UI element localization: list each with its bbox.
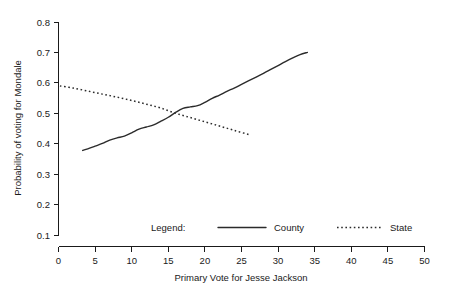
- y-tick-label: 0.3: [37, 169, 50, 180]
- legend-title: Legend:: [151, 222, 185, 233]
- y-axis-title: Probability of voting for Mondale: [12, 60, 23, 196]
- x-tick-label: 15: [163, 255, 174, 266]
- chart-figure: 0.8 0.7 0.6 0.5 0.4 0.3 0.2 0.1 0 5 1: [0, 0, 450, 296]
- chart-legend: Legend: County State: [151, 222, 412, 233]
- y-axis-ticks: [54, 22, 59, 235]
- x-tick-label: 30: [273, 255, 284, 266]
- x-tick-label: 0: [56, 255, 61, 266]
- legend-label-state: State: [390, 222, 412, 233]
- x-axis-title: Primary Vote for Jesse Jackson: [174, 272, 307, 283]
- x-tick-label: 40: [346, 255, 357, 266]
- x-tick-label: 45: [383, 255, 394, 266]
- y-tick-label: 0.5: [37, 108, 50, 119]
- y-tick-label: 0.4: [37, 138, 50, 149]
- x-tick-label: 20: [200, 255, 211, 266]
- x-tick-label: 35: [309, 255, 320, 266]
- legend-label-county: County: [274, 222, 304, 233]
- y-tick-label: 0.1: [37, 230, 50, 241]
- x-tick-label: 5: [92, 255, 97, 266]
- y-tick-label: 0.8: [37, 17, 50, 28]
- x-tick-label: 50: [419, 255, 430, 266]
- line-chart-svg: 0.8 0.7 0.6 0.5 0.4 0.3 0.2 0.1 0 5 1: [0, 0, 450, 296]
- x-axis-tick-labels: 0 5 10 15 20 25 30 35 40 45 50: [56, 255, 430, 266]
- y-axis-tick-labels: 0.8 0.7 0.6 0.5 0.4 0.3 0.2 0.1: [37, 17, 50, 241]
- series-line-county: [83, 52, 308, 150]
- x-axis-ticks: [59, 247, 425, 253]
- y-tick-label: 0.7: [37, 47, 50, 58]
- x-tick-label: 10: [126, 255, 137, 266]
- series-line-state: [60, 86, 249, 135]
- x-tick-label: 25: [236, 255, 247, 266]
- y-tick-label: 0.6: [37, 77, 50, 88]
- y-tick-label: 0.2: [37, 199, 50, 210]
